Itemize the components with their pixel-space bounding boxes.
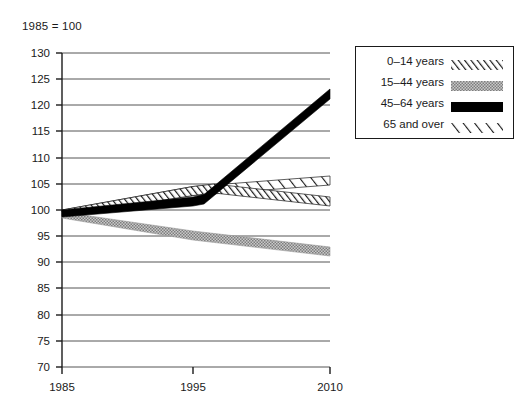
y-axis: [56, 53, 62, 367]
x-axis: [62, 367, 330, 374]
legend-label: 0–14 years: [387, 55, 444, 67]
x-tick-labels: 1985 1995 2010: [49, 381, 343, 393]
y-tick-labels: 130 125 120 115 110 105 100 95 90 85 80 …: [31, 47, 50, 373]
dense-hatch-swatch-icon: [451, 56, 503, 66]
x-tick-label: 1995: [180, 381, 206, 393]
y-tick-label: 95: [37, 230, 50, 242]
legend-label: 45–64 years: [381, 97, 444, 109]
legend: 0–14 years 15–44 years 45–64 years 65 an…: [355, 46, 514, 139]
y-tick-label: 85: [37, 282, 50, 294]
y-tick-label: 105: [31, 178, 50, 190]
solid-black-swatch-icon: [451, 98, 503, 108]
y-tick-label: 125: [31, 73, 50, 85]
legend-item-65-and-over: 65 and over: [356, 114, 503, 135]
gray-stipple-swatch-icon: [451, 77, 503, 87]
chart-figure: 1985 = 100: [0, 0, 524, 407]
x-tick-label: 1985: [49, 381, 75, 393]
x-tick-label: 2010: [317, 381, 343, 393]
y-tick-label: 75: [37, 335, 50, 347]
y-tick-label: 90: [37, 256, 50, 268]
legend-item-45-64-years: 45–64 years: [356, 93, 503, 114]
y-tick-label: 80: [37, 309, 50, 321]
legend-label: 65 and over: [383, 118, 444, 130]
legend-label: 15–44 years: [381, 76, 444, 88]
sparse-hatch-swatch-icon: [451, 119, 503, 129]
y-tick-label: 100: [31, 204, 50, 216]
y-tick-label: 70: [37, 361, 50, 373]
y-tick-label: 115: [32, 125, 50, 137]
legend-item-15-44-years: 15–44 years: [356, 72, 503, 93]
y-tick-label: 110: [32, 152, 50, 164]
y-tick-label: 120: [31, 99, 50, 111]
series-15-44-years: [62, 212, 330, 256]
legend-item-0-14-years: 0–14 years: [356, 51, 503, 72]
y-tick-label: 130: [31, 47, 50, 59]
